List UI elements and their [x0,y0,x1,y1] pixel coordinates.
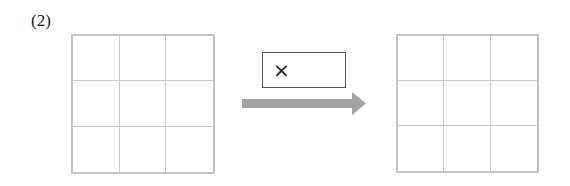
output-grid-cell[interactable] [398,81,444,126]
multiply-icon: × [273,58,290,82]
right-arrow-icon [242,92,366,115]
input-grid [71,34,215,174]
output-grid-cell[interactable] [491,81,537,126]
output-grid-cell[interactable] [491,126,537,171]
output-grid-cell[interactable] [444,36,490,81]
input-grid-cell[interactable] [166,36,213,81]
output-grid [396,34,539,173]
input-grid-cell[interactable] [120,127,167,172]
input-grid-cell[interactable] [73,81,120,126]
input-grid-cell[interactable] [166,127,213,172]
operation-box: × [262,52,346,88]
output-grid-cell[interactable] [444,81,490,126]
input-grid-cell[interactable] [166,81,213,126]
output-grid-cell[interactable] [444,126,490,171]
problem-number-label: (2) [31,11,51,31]
output-grid-cell[interactable] [398,126,444,171]
output-grid-cell[interactable] [398,36,444,81]
input-grid-cell[interactable] [120,36,167,81]
input-grid-cell[interactable] [73,127,120,172]
input-grid-cell[interactable] [120,81,167,126]
input-grid-cell[interactable] [73,36,120,81]
output-grid-cell[interactable] [491,36,537,81]
